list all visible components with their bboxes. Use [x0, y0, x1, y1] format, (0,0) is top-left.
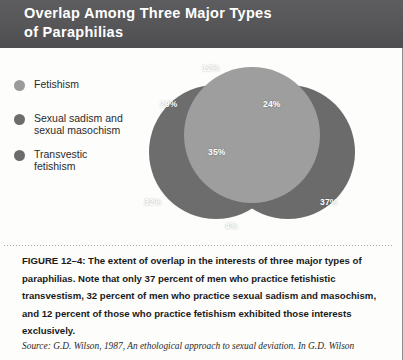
venn-region-value-fetishism-transvestic: 24% — [263, 99, 281, 109]
figure-source: Source: G.D. Wilson, 1987, An ethologica… — [22, 340, 394, 352]
legend-item-label: Transvestic fetishism — [34, 148, 87, 172]
legend-item-sexual-sadism-masochism: Sexual sadism and sexual masochism — [14, 112, 123, 136]
venn-circle-fetishism — [184, 67, 320, 203]
venn-region-value-transvestic-only: 37% — [320, 197, 338, 207]
legend-swatch-icon — [14, 150, 25, 161]
figure-page: Overlap Among Three Major Types of Parap… — [0, 0, 403, 360]
legend-swatch-icon — [14, 80, 25, 91]
legend-item-label: Sexual sadism and sexual masochism — [34, 112, 123, 136]
legend-item-label: Fetishism — [34, 78, 79, 90]
legend-item-fetishism: Fetishism — [14, 78, 79, 91]
venn-diagram-svg — [140, 55, 365, 240]
legend-swatch-icon — [14, 114, 25, 125]
legend-item-transvestic-fetishism: Transvestic fetishism — [14, 148, 87, 172]
figure-caption: FIGURE 12–4: The extent of overlap in th… — [22, 252, 384, 340]
venn-region-value-fetishism-sadism: 29% — [160, 99, 178, 109]
venn-region-value-all-three: 35% — [208, 147, 226, 157]
figure-header-banner: Overlap Among Three Major Types of Parap… — [0, 0, 403, 48]
page-title: Overlap Among Three Major Types of Parap… — [24, 4, 374, 42]
caption-divider — [4, 245, 394, 246]
venn-diagram: 12% 29% 24% 35% 32% 37% 4% — [140, 55, 365, 240]
venn-region-value-sadism-transvestic: 4% — [225, 221, 238, 231]
venn-region-value-sadism-only: 32% — [144, 197, 162, 207]
venn-region-value-fetishism-only: 12% — [202, 63, 220, 73]
